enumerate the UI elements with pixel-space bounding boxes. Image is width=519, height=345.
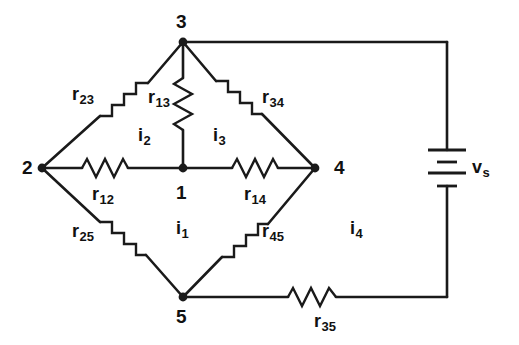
resistor-subscript-r23: 23 — [80, 92, 94, 107]
node-dot-3 — [179, 38, 188, 47]
circuit-schematic-svg — [0, 0, 519, 345]
resistor-label-r34: r34 — [262, 88, 283, 106]
wire-node5-to-r45 — [183, 257, 222, 297]
node-label-2: 2 — [22, 158, 33, 177]
source-label-vs: vs — [472, 158, 489, 176]
resistor-label-r25: r25 — [72, 222, 93, 240]
mesh-current-subscript-i4: 4 — [356, 226, 363, 241]
node-label-3: 3 — [176, 12, 187, 31]
resistor-symbol-r13: r — [148, 87, 155, 107]
resistor-r12-branch — [42, 159, 183, 177]
resistor-symbol-r12: r — [92, 184, 99, 204]
mesh-current-label-i3: i3 — [213, 126, 225, 144]
resistor-r14-zigzag — [232, 159, 278, 177]
resistor-label-r13: r13 — [148, 88, 169, 106]
resistor-r35-zigzag — [288, 288, 336, 306]
circuit-diagram: 3 2 1 4 5 r23 r13 r34 r12 r14 r25 r45 r3… — [0, 0, 519, 345]
mesh-current-label-i2: i2 — [138, 126, 150, 144]
wire-r45-to-node4 — [268, 168, 315, 224]
voltage-source-symbol — [428, 150, 466, 186]
mesh-current-symbol-i2: i — [138, 125, 143, 145]
resistor-r34-zigzag — [216, 81, 262, 114]
mesh-current-symbol-i4: i — [350, 218, 355, 238]
resistor-r12-zigzag — [82, 159, 128, 177]
resistor-subscript-r12: 12 — [100, 192, 114, 207]
resistor-r13-branch — [174, 42, 192, 168]
resistor-r25-zigzag — [100, 222, 146, 255]
resistor-label-r23: r23 — [72, 85, 93, 103]
resistor-symbol-r25: r — [72, 221, 79, 241]
resistor-r34-branch — [183, 42, 315, 168]
node-dot-2 — [38, 164, 47, 173]
resistor-symbol-r34: r — [262, 87, 269, 107]
mesh-current-subscript-i1: 1 — [182, 226, 189, 241]
resistor-symbol-r23: r — [72, 84, 79, 104]
resistor-subscript-r35: 35 — [322, 319, 336, 334]
source-subscript-vs: s — [483, 165, 490, 180]
resistor-subscript-r13: 13 — [156, 95, 170, 110]
node-dots — [38, 38, 320, 302]
resistor-symbol-r45: r — [262, 221, 269, 241]
wire-r23-to-node3 — [148, 42, 183, 83]
node-label-5: 5 — [176, 307, 187, 326]
resistor-symbol-r14: r — [244, 184, 251, 204]
resistor-label-r45: r45 — [262, 222, 283, 240]
source-symbol-vs: v — [472, 157, 482, 177]
resistor-subscript-r14: 14 — [252, 192, 266, 207]
mesh-current-label-i4: i4 — [350, 219, 362, 237]
mesh-current-label-i1: i1 — [176, 219, 188, 237]
node-label-1: 1 — [176, 183, 187, 202]
wire-node5-to-bottom-right — [183, 288, 447, 306]
node-dot-4 — [311, 164, 320, 173]
node-dot-1 — [179, 164, 188, 173]
resistor-r23-zigzag — [100, 83, 148, 116]
resistor-label-r35: r35 — [314, 312, 335, 330]
resistor-r14-branch — [183, 159, 315, 177]
resistor-symbol-r35: r — [314, 311, 321, 331]
resistor-label-r14: r14 — [244, 185, 265, 203]
mesh-current-subscript-i2: 2 — [144, 133, 151, 148]
mesh-current-subscript-i3: 3 — [219, 133, 226, 148]
node-dot-5 — [179, 293, 188, 302]
resistor-r13-zigzag — [174, 78, 192, 130]
resistor-subscript-r45: 45 — [270, 229, 284, 244]
wire-r25-to-node5 — [146, 255, 183, 297]
wire-r34-to-node4 — [262, 114, 315, 168]
wire-node3-to-r34 — [183, 42, 216, 81]
resistor-label-r12: r12 — [92, 185, 113, 203]
mesh-current-symbol-i1: i — [176, 218, 181, 238]
node-label-4: 4 — [334, 158, 345, 177]
mesh-current-symbol-i3: i — [213, 125, 218, 145]
resistor-subscript-r34: 34 — [270, 95, 284, 110]
wire-node2-to-r23 — [42, 116, 100, 168]
resistor-subscript-r25: 25 — [80, 229, 94, 244]
